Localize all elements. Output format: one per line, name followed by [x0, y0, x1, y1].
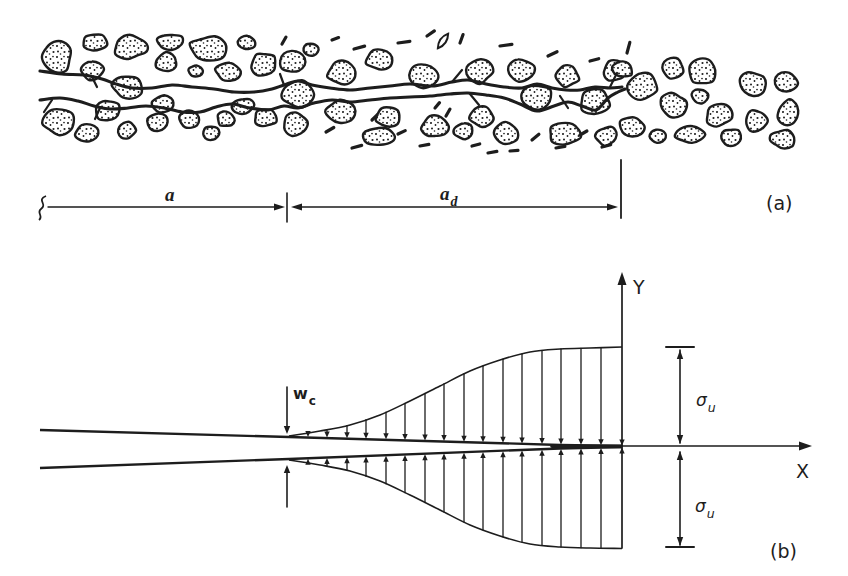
sigma-lower-arrowhead-up — [677, 451, 683, 460]
sigma-lower-arrowhead-down — [677, 537, 683, 546]
aggregate-stone — [238, 36, 256, 49]
label-ad-base: a — [440, 183, 450, 204]
aggregate-stone — [612, 61, 632, 76]
stress-arrowhead-lower — [324, 458, 329, 464]
stress-arrowhead-lower — [578, 448, 583, 454]
aggregate-stone — [746, 110, 768, 132]
aggregate-stone — [304, 44, 319, 56]
aggregate-stone — [454, 123, 473, 139]
microcrack-dash — [548, 52, 557, 56]
aggregate-stone — [662, 58, 683, 79]
microcrack-dash — [352, 145, 362, 148]
aggregate-stone — [280, 51, 305, 72]
stress-arrowhead-lower — [363, 457, 368, 463]
stress-arrowhead-lower — [441, 453, 446, 459]
label-crack-length-a: a — [165, 184, 175, 205]
dimension-arrow-a-right — [274, 204, 285, 211]
label-x-axis: X — [796, 460, 809, 482]
aggregate-sketch-group — [42, 31, 798, 153]
crack-face-lower — [40, 447, 622, 468]
microcrack-dash — [427, 31, 434, 36]
crack-face-upper — [40, 430, 622, 446]
stress-arrowhead-lower — [383, 456, 388, 462]
stress-envelope-upper — [289, 347, 622, 436]
microcrack-dash — [420, 144, 429, 146]
label-sigma-upper-subscript: u — [708, 400, 716, 415]
stress-arrowhead-upper — [578, 439, 583, 445]
figure-page: a ad (a) Y X wc σu σu (b) — [0, 0, 848, 576]
stress-arrowhead-upper — [324, 432, 329, 438]
aggregate-stone — [508, 59, 535, 81]
aggregate-stone — [421, 115, 449, 136]
aggregate-stone — [83, 34, 107, 50]
aggregate-stone — [555, 65, 579, 87]
aggregate-stone — [42, 109, 74, 135]
microcrack-dash — [332, 38, 339, 40]
label-critical-opening-wc: wc — [293, 384, 316, 408]
crack-branch — [280, 74, 284, 85]
aggregate-stone — [218, 111, 235, 125]
stress-arrowhead-upper — [441, 435, 446, 441]
aggregate-stone — [75, 124, 98, 141]
stress-arrowhead-upper — [500, 437, 505, 443]
microcrack-dash — [510, 150, 518, 151]
aggregate-stone — [661, 93, 687, 118]
label-y-axis: Y — [632, 276, 645, 298]
crack-length-dimension-group — [39, 160, 621, 222]
microcrack-dash — [326, 128, 334, 133]
stress-arrowhead-upper — [480, 436, 485, 442]
aggregate-stone — [327, 61, 355, 85]
microcrack-dash — [472, 144, 480, 146]
microcrack-dash — [556, 146, 565, 148]
stress-arrowhead-lower — [422, 454, 427, 460]
microcrack-dash — [354, 46, 365, 49]
stress-arrowhead-upper — [402, 434, 407, 440]
aggregate-stone — [627, 73, 657, 100]
aggregate-stone — [118, 122, 136, 139]
aggregate-stone — [469, 106, 494, 127]
microcrack-dash — [398, 131, 405, 134]
aggregate-stone — [675, 126, 705, 143]
stress-arrowhead-lower — [480, 452, 485, 458]
aggregate-stone — [115, 35, 148, 59]
sigma-upper-arrowhead-up — [677, 350, 683, 359]
aggregate-stone — [770, 130, 795, 149]
stress-arrowhead-lower — [461, 453, 466, 459]
sigma-upper-arrowhead-down — [677, 435, 683, 444]
stress-arrowhead-upper — [422, 435, 427, 441]
stress-arrowhead-lower — [539, 450, 544, 456]
aggregate-stone — [251, 54, 275, 76]
microcrack-dash — [446, 109, 450, 116]
microcrack-dash — [435, 103, 439, 108]
label-sigma-lower-subscript: u — [707, 506, 715, 521]
aggregate-stone — [147, 113, 167, 131]
microcrack-dash — [500, 44, 512, 46]
stress-arrowhead-upper — [344, 432, 349, 438]
aggregate-stone — [363, 128, 395, 145]
stress-arrowhead-lower — [558, 449, 563, 455]
aggregate-stone — [203, 127, 219, 140]
stress-arrowhead-upper — [363, 433, 368, 439]
stress-arrowhead-lower — [500, 451, 505, 457]
crack-branch — [470, 94, 479, 105]
aggregate-stone — [692, 89, 709, 103]
microcrack-dash — [398, 41, 410, 43]
label-ad-subscript: d — [451, 194, 459, 209]
microcrack-dash — [602, 145, 611, 147]
aggregate-stone — [376, 107, 400, 126]
aggregate-stone — [550, 123, 581, 145]
aggregate-stone — [255, 109, 277, 126]
x-axis-arrowhead — [799, 442, 812, 451]
microcrack-dash — [460, 35, 463, 43]
aggregate-stone — [707, 104, 733, 127]
microcrack-dash — [282, 37, 286, 44]
aggregate-stone — [775, 72, 798, 91]
aggregate-stone — [42, 41, 71, 72]
microcrack-dash — [532, 134, 539, 140]
dimension-break-squiggle — [39, 196, 46, 220]
aggregate-stone — [157, 35, 183, 50]
stress-arrowhead-upper — [558, 439, 563, 445]
stress-arrowhead-lower — [598, 448, 603, 454]
aggregate-stone — [778, 99, 799, 125]
aggregate-stone — [494, 122, 518, 144]
